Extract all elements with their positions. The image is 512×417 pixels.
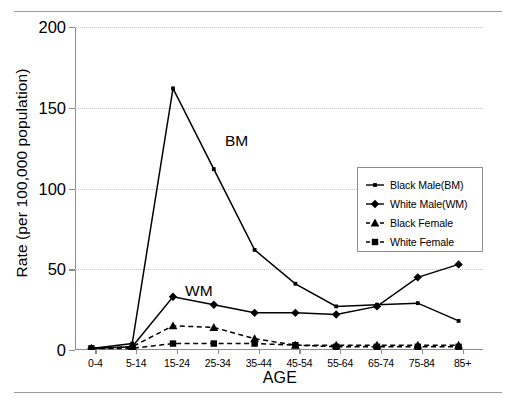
x-tick-label: 35-44 xyxy=(246,357,272,369)
legend-marker-black_male-icon xyxy=(364,178,390,192)
x-tick-label: 75-84 xyxy=(409,357,435,369)
x-tick-label: 25-34 xyxy=(205,357,231,369)
chart-figure: Rate (per 100,000 population) 0501001502… xyxy=(0,14,512,392)
x-tick-label: 85+ xyxy=(454,357,471,369)
y-tick-label: 50 xyxy=(48,261,66,278)
series-black_female xyxy=(87,321,463,350)
bottom-divider-rule xyxy=(14,392,502,393)
y-tick-label: 200 xyxy=(38,19,66,36)
legend-label: Black Female xyxy=(390,217,453,229)
figure-caption xyxy=(16,400,316,414)
chart-legend: Black Male(BM)White Male(WM)Black Female… xyxy=(357,167,483,252)
legend-label: White Male(WM) xyxy=(390,198,467,210)
legend-item-white_male: White Male(WM) xyxy=(364,194,482,213)
legend-item-black_female: Black Female xyxy=(364,213,482,232)
annotation-wm: WM xyxy=(185,282,213,300)
y-tick-label: 100 xyxy=(38,180,66,197)
annotation-bm: BM xyxy=(225,132,248,150)
y-tick-label: 0 xyxy=(57,342,66,359)
y-tick-mark xyxy=(69,350,75,351)
x-tick-label: 55-64 xyxy=(327,357,353,369)
top-divider-rule xyxy=(14,11,502,12)
legend-label: Black Male(BM) xyxy=(390,179,463,191)
legend-label: White Female xyxy=(390,236,454,248)
legend-item-white_female: White Female xyxy=(364,232,482,251)
y-axis-title: Rate (per 100,000 population) xyxy=(13,23,31,323)
legend-marker-white_male-icon xyxy=(364,197,390,211)
x-tick-label: 45-54 xyxy=(286,357,312,369)
legend-marker-black_female-icon xyxy=(364,216,390,230)
x-tick-label: 65-74 xyxy=(368,357,394,369)
legend-marker-white_female-icon xyxy=(364,235,390,249)
x-axis-title: AGE xyxy=(75,369,485,387)
x-tick-label: 0-4 xyxy=(88,357,103,369)
x-tick-label: 15-24 xyxy=(164,357,190,369)
x-tick-label: 5-14 xyxy=(126,357,146,369)
legend-item-black_male: Black Male(BM) xyxy=(364,175,482,194)
y-tick-label: 150 xyxy=(38,100,66,117)
plot-area: 050100150200 0-45-1415-2425-3435-4445-54… xyxy=(75,27,483,350)
